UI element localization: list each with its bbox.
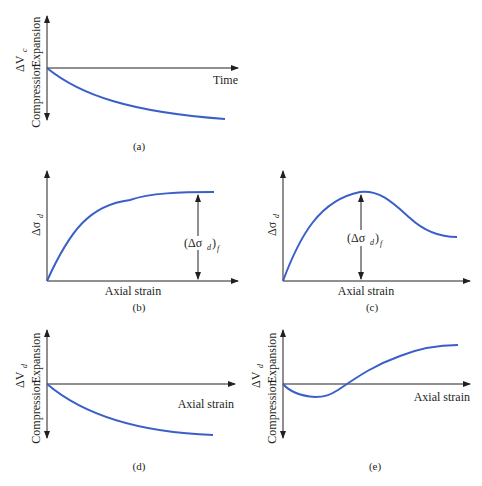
svg-text:Δσ: Δσ bbox=[29, 221, 43, 236]
figure-canvas: Expansion Compression ΔV c Time (a) (Δσ … bbox=[0, 0, 482, 486]
panel-a: Expansion Compression ΔV c Time (a) bbox=[13, 16, 238, 153]
peak-annotation: (Δσ d ) f bbox=[184, 236, 221, 253]
y-label: ΔV d bbox=[13, 363, 29, 388]
svg-text:ΔV: ΔV bbox=[249, 371, 263, 388]
svg-text:d: d bbox=[36, 213, 45, 218]
svg-text:(Δσ: (Δσ bbox=[347, 231, 366, 245]
panel-c: (Δσ d ) f Δσ d Axial strain (c) bbox=[265, 171, 470, 314]
curve bbox=[283, 192, 457, 281]
caption: (a) bbox=[133, 140, 146, 153]
caption: (c) bbox=[366, 301, 379, 314]
panel-b: (Δσ d ) f Δσ d Axial strain (b) bbox=[29, 171, 238, 314]
x-label: Time bbox=[213, 73, 238, 87]
peak-annotation: (Δσ d ) f bbox=[347, 231, 384, 248]
expansion-label: Expansion bbox=[29, 333, 43, 384]
panel-d: Expansion Compression ΔV d Axial strain … bbox=[13, 330, 235, 473]
svg-text:d: d bbox=[20, 363, 29, 368]
svg-text:d: d bbox=[272, 213, 281, 218]
svg-text:f: f bbox=[217, 244, 221, 253]
compression-label: Compression bbox=[29, 380, 43, 443]
svg-text:d: d bbox=[256, 363, 265, 368]
svg-text:Δσ: Δσ bbox=[265, 221, 279, 236]
y-label: ΔV d bbox=[249, 363, 265, 388]
caption: (b) bbox=[133, 301, 146, 314]
caption: (d) bbox=[133, 460, 146, 473]
curve bbox=[47, 68, 225, 119]
panel-e: Expansion Compression ΔV d Axial strain … bbox=[249, 330, 470, 473]
y-label: Δσ d bbox=[265, 213, 281, 236]
expansion-label: Expansion bbox=[265, 333, 279, 384]
y-label: Δσ d bbox=[29, 213, 45, 236]
svg-text:(Δσ: (Δσ bbox=[184, 236, 203, 250]
x-label: Axial strain bbox=[338, 284, 394, 298]
compression-label: Compression bbox=[265, 380, 279, 443]
svg-text:): ) bbox=[375, 231, 379, 245]
y-label: ΔV c bbox=[13, 48, 29, 72]
x-label: Axial strain bbox=[178, 397, 234, 411]
svg-text:): ) bbox=[212, 236, 216, 250]
compression-label: Compression bbox=[29, 64, 43, 127]
svg-text:c: c bbox=[20, 48, 29, 52]
caption: (e) bbox=[369, 460, 382, 473]
svg-text:ΔV: ΔV bbox=[13, 371, 27, 388]
expansion-label: Expansion bbox=[29, 17, 43, 68]
svg-text:ΔV: ΔV bbox=[13, 55, 27, 72]
x-label: Axial strain bbox=[414, 390, 470, 404]
x-label: Axial strain bbox=[105, 284, 161, 298]
svg-text:f: f bbox=[380, 239, 384, 248]
